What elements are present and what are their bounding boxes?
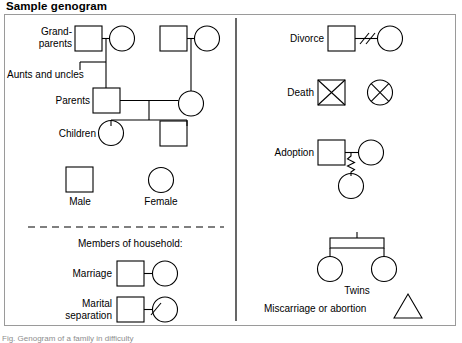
child-son-square [160, 121, 187, 146]
miscarriage-triangle [394, 294, 422, 318]
label-members-of-household: Members of household: [78, 238, 183, 249]
adoption-zigzag-line [348, 153, 355, 177]
figure-bottom-caption: Fig. Genogram of a family in difficulty [2, 334, 242, 343]
label-adoption: Adoption [248, 147, 314, 158]
label-parents: Parents [20, 95, 90, 106]
label-marital-separation-line1: Marital [44, 298, 112, 309]
grandfather-paternal-square [75, 26, 102, 51]
grandmother-paternal-circle [110, 26, 135, 51]
marriage-female-circle [153, 261, 178, 286]
legend-female-circle [149, 168, 174, 193]
label-miscarriage-or-abortion: Miscarriage or abortion [264, 303, 366, 314]
grandmother-maternal-circle [195, 26, 220, 51]
genogram-drawing [0, 0, 462, 343]
label-marital-separation-line2: separation [34, 310, 112, 321]
label-grandparents-line1: Grand- [4, 26, 72, 37]
adopted-child-circle [339, 174, 364, 199]
label-divorce: Divorce [258, 33, 324, 44]
label-twins: Twins [327, 285, 387, 296]
legend-male-square [66, 167, 93, 192]
marriage-male-square [117, 261, 144, 286]
label-death: Death [252, 87, 314, 98]
grandfather-maternal-square [160, 26, 187, 51]
label-male: Male [50, 196, 110, 207]
adoption-mother-circle [359, 140, 384, 165]
divorce-male-square [328, 26, 355, 51]
adoption-father-square [318, 140, 345, 165]
twins-descent-bracket [330, 238, 384, 248]
twin-1-circle [318, 257, 343, 282]
mother-circle [179, 91, 204, 116]
label-aunts-and-uncles: Aunts and uncles [7, 69, 84, 80]
label-marriage: Marriage [44, 268, 112, 279]
father-square [93, 88, 120, 113]
label-children: Children [28, 128, 96, 139]
label-grandparents-line2: parents [4, 38, 72, 49]
genogram-figure: Sample genogram [0, 0, 462, 343]
label-female: Female [131, 196, 191, 207]
divorce-female-circle [378, 26, 403, 51]
twin-2-circle [372, 257, 397, 282]
separation-male-square [117, 297, 144, 322]
